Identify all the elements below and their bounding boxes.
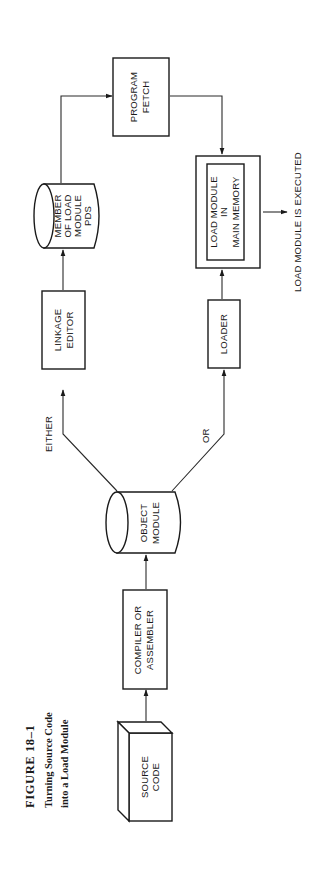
load-module-executed-text: LOAD MODULE IS EXECUTED — [292, 152, 303, 292]
program-fetch-box: PROGRAM FETCH — [113, 58, 169, 136]
loader-label: LOADER — [218, 314, 229, 354]
compiler-label-2: ASSEMBLER — [144, 610, 155, 670]
source-code-label-1: SOURCE — [139, 756, 150, 798]
either-label: EITHER — [43, 416, 54, 452]
linkage-editor-box: LINKAGE EDITOR — [42, 291, 85, 369]
object-module-cylinder: OBJECT MODULE — [106, 492, 181, 553]
loader-box: LOADER — [208, 300, 240, 368]
source-code-box: SOURCE CODE — [118, 722, 172, 821]
figure-number: FIGURE 18–1 — [23, 725, 37, 808]
object-module-label-1: OBJECT — [138, 504, 149, 543]
edge-object-to-loader — [172, 370, 224, 491]
edge-fetch-to-memory — [170, 96, 222, 154]
figure-caption-line1: Turning Source Code — [43, 712, 54, 808]
edge-object-to-linkage — [63, 390, 117, 491]
flow-diagram: FIGURE 18–1 Turning Source Code into a L… — [0, 0, 322, 884]
pds-label-4: PDS — [82, 206, 93, 226]
figure-caption: FIGURE 18–1 Turning Source Code into a L… — [23, 712, 70, 808]
main-memory-box: LOAD MODULE IN MAIN MEMORY — [196, 156, 260, 268]
object-module-label-2: MODULE — [150, 502, 161, 544]
program-fetch-label-2: FETCH — [140, 81, 151, 114]
compiler-label-1: COMPILER OR — [132, 606, 143, 675]
or-label: OR — [200, 428, 211, 443]
source-code-label-2: CODE — [150, 763, 161, 791]
main-memory-label-3: MAIN MEMORY — [230, 176, 241, 248]
figure-caption-line2: into a Load Module — [59, 719, 70, 808]
linkage-editor-label-2: EDITOR — [64, 312, 75, 349]
linkage-editor-label-1: LINKAGE — [52, 309, 63, 352]
main-memory-label-2: IN — [218, 207, 229, 217]
program-fetch-label-1: PROGRAM — [128, 72, 139, 123]
edge-pds-to-fetch — [61, 96, 112, 183]
compiler-box: COMPILER OR ASSEMBLER — [123, 590, 167, 689]
pds-member-cylinder: MEMBER OF LOAD MODULE PDS — [34, 184, 99, 248]
